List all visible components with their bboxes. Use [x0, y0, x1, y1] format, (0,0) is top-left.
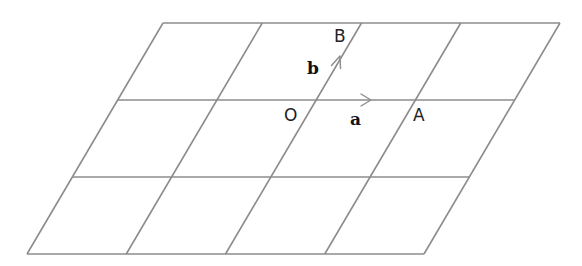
- grid-line-left: [27, 23, 163, 254]
- grid-line-col-3: [325, 23, 461, 254]
- grid-line-col-2: [226, 23, 362, 254]
- point-label-A: A: [413, 105, 425, 125]
- vector-label-b: b: [307, 58, 319, 78]
- vector-label-a: a: [350, 109, 361, 129]
- parallelogram-grid-diagram: B O A b a: [0, 0, 582, 266]
- point-label-O: O: [284, 105, 297, 125]
- grid-line-col-1: [126, 23, 262, 254]
- slanted-grid-lines: [27, 23, 560, 254]
- point-label-B: B: [334, 26, 346, 46]
- grid-line-right: [424, 23, 560, 254]
